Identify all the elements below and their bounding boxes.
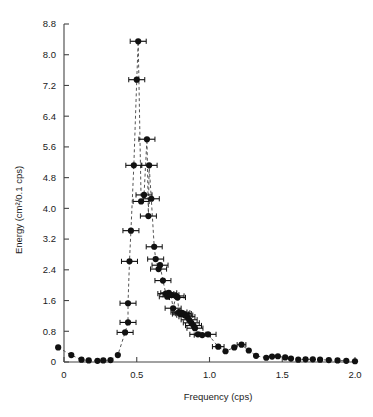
data-point xyxy=(238,342,244,348)
data-point xyxy=(122,329,128,335)
data-point xyxy=(125,319,131,325)
y-tick-label: 7.2 xyxy=(43,80,56,91)
x-tick-label: 0 xyxy=(61,369,66,380)
y-tick-label: 4.0 xyxy=(43,203,56,214)
data-point xyxy=(153,256,159,262)
data-point xyxy=(126,258,132,264)
data-point xyxy=(68,352,74,358)
data-point xyxy=(148,196,154,202)
y-tick-label: 4.8 xyxy=(43,172,56,183)
data-point xyxy=(275,353,281,359)
data-point xyxy=(310,356,316,362)
data-point xyxy=(352,358,358,364)
data-point xyxy=(115,352,121,358)
data-point xyxy=(302,356,308,362)
y-axis-label: Energy (cm²/0.1 cps) xyxy=(13,166,24,254)
data-point xyxy=(86,357,92,363)
x-tick-label: 1.0 xyxy=(203,369,216,380)
wave-energy-spectrum-chart: 00.81.62.43.24.04.85.66.47.28.08.8 00.51… xyxy=(0,0,373,417)
data-point xyxy=(151,244,157,250)
data-point xyxy=(205,331,211,337)
y-tick-label: 8.8 xyxy=(43,18,56,29)
data-point xyxy=(146,162,152,168)
y-tick-label: 0 xyxy=(51,356,56,367)
data-point xyxy=(94,358,100,364)
data-point xyxy=(192,325,198,331)
data-point xyxy=(174,294,180,300)
y-tick-label: 2.4 xyxy=(43,264,56,275)
data-point xyxy=(78,357,84,363)
data-point xyxy=(144,136,150,142)
data-point xyxy=(231,344,237,350)
data-point xyxy=(246,347,252,353)
data-point xyxy=(138,198,144,204)
x-tick-label: 2.0 xyxy=(348,369,361,380)
data-point xyxy=(160,277,166,283)
data-point xyxy=(55,344,61,350)
y-tick-label: 1.6 xyxy=(43,295,56,306)
x-tick-label: 1.5 xyxy=(276,369,289,380)
data-point xyxy=(141,192,147,198)
data-point xyxy=(343,358,349,364)
y-tick-label: 8.0 xyxy=(43,49,56,60)
data-point xyxy=(295,357,301,363)
data-point xyxy=(199,332,205,338)
data-point xyxy=(253,353,259,359)
data-point xyxy=(134,77,140,83)
data-point xyxy=(326,357,332,363)
data-point xyxy=(100,357,106,363)
data-point xyxy=(125,300,131,306)
data-point xyxy=(128,228,134,234)
y-tick-label: 5.6 xyxy=(43,141,56,152)
x-tick-label: 0.5 xyxy=(130,369,143,380)
y-tick-label: 6.4 xyxy=(43,111,56,122)
data-point xyxy=(131,162,137,168)
data-point xyxy=(317,357,323,363)
data-point xyxy=(334,357,340,363)
data-point xyxy=(222,348,228,354)
data-point xyxy=(170,305,176,311)
data-point xyxy=(282,354,288,360)
data-point xyxy=(157,262,163,268)
data-point xyxy=(269,354,275,360)
x-axis-label: Frequency (cps) xyxy=(184,391,253,402)
chart-figure: 00.81.62.43.24.04.85.66.47.28.08.8 00.51… xyxy=(0,0,373,417)
data-point xyxy=(263,355,269,361)
data-point xyxy=(215,344,221,350)
y-tick-label: 3.2 xyxy=(43,233,56,244)
data-point xyxy=(135,38,141,44)
y-tick-label: 0.8 xyxy=(43,326,56,337)
data-point xyxy=(145,213,151,219)
data-point xyxy=(107,357,113,363)
data-point xyxy=(288,355,294,361)
